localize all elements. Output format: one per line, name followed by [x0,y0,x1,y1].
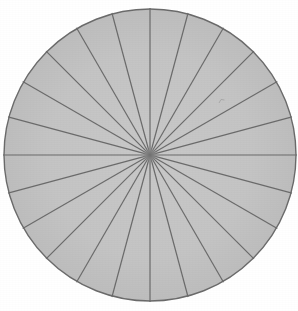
sectored-circle-figure [0,0,298,311]
center-hub [143,148,157,162]
figure-stage [0,0,298,311]
